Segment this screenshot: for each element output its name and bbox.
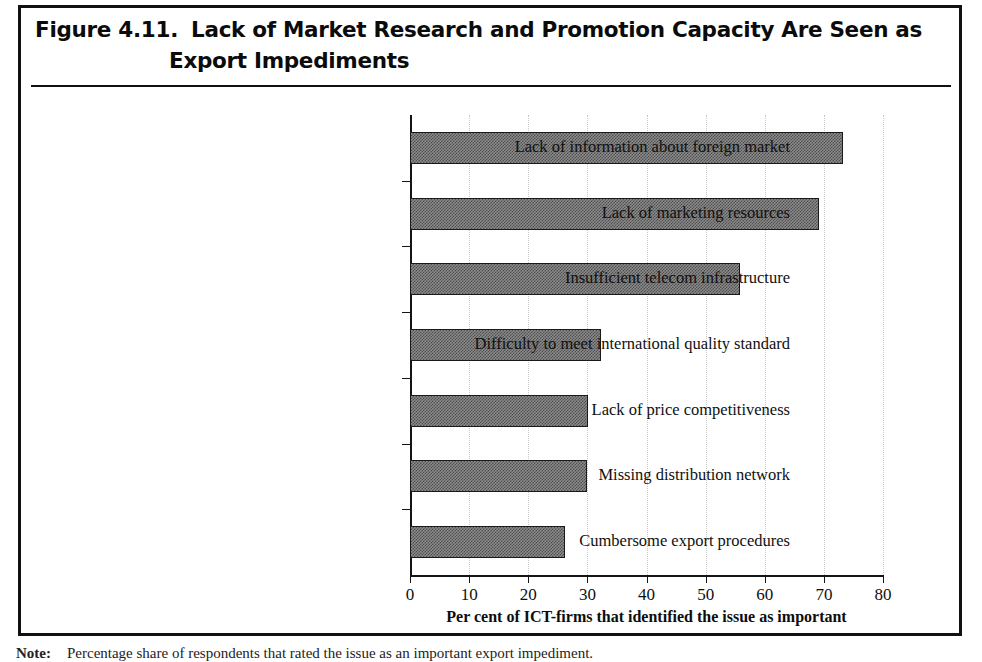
figure-title-line1: Lack of Market Research and Promotion Ca… <box>191 17 922 42</box>
footnote-text: Percentage share of respondents that rat… <box>67 645 593 661</box>
figure-frame: Figure 4.11.Lack of Market Research and … <box>18 5 962 636</box>
x-axis-tick <box>587 575 588 583</box>
chart-area: Lack of information about foreign market… <box>21 96 959 636</box>
category-label: Insufficient telecom infrastructure <box>390 268 790 288</box>
figure-number: Figure 4.11. <box>35 14 178 45</box>
x-axis-tick-label: 30 <box>557 585 617 605</box>
figure-footnote: Note:Percentage share of respondents tha… <box>16 645 956 662</box>
category-label: Lack of information about foreign market <box>390 137 790 157</box>
category-label: Difficulty to meet international quality… <box>390 334 790 354</box>
x-axis-tick-label: 0 <box>380 585 440 605</box>
x-axis-tick <box>824 575 825 583</box>
x-axis-tick-label: 60 <box>735 585 795 605</box>
x-axis-title: Per cent of ICT-firms that identified th… <box>410 608 883 626</box>
category-label: Lack of price competitiveness <box>390 400 790 420</box>
x-axis-tick-label: 20 <box>498 585 558 605</box>
category-label: Lack of marketing resources <box>390 203 790 223</box>
x-axis-tick <box>647 575 648 583</box>
title-divider <box>31 85 951 87</box>
x-axis-tick <box>883 575 884 583</box>
x-axis-tick <box>765 575 766 583</box>
category-label: Cumbersome export procedures <box>390 531 790 551</box>
x-axis-tick <box>706 575 707 583</box>
figure-title: Figure 4.11.Lack of Market Research and … <box>35 14 935 76</box>
figure-title-line2: Export Impediments <box>169 45 935 76</box>
category-labels: Lack of information about foreign market… <box>390 115 790 575</box>
footnote-label: Note: <box>16 645 51 661</box>
x-axis-tick-label: 50 <box>676 585 736 605</box>
x-axis-tick <box>410 575 411 583</box>
plot-area: Lack of information about foreign market… <box>410 115 883 575</box>
x-axis-tick-label: 40 <box>617 585 677 605</box>
gridline <box>824 115 825 575</box>
gridline <box>883 115 884 575</box>
x-axis-tick <box>469 575 470 583</box>
category-label: Missing distribution network <box>390 465 790 485</box>
x-axis-tick-label: 80 <box>853 585 913 605</box>
x-axis-tick-label: 10 <box>439 585 499 605</box>
x-axis-tick-label: 70 <box>794 585 854 605</box>
x-axis-tick <box>528 575 529 583</box>
